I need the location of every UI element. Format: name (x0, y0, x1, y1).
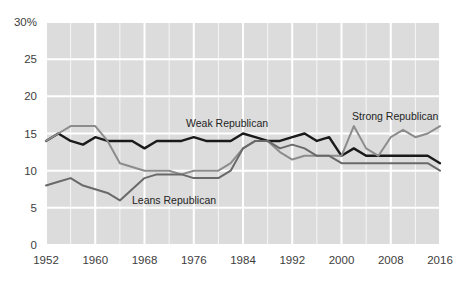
line-chart: 051015202530% 19521960196819761984199220… (0, 0, 463, 287)
x-tick-label: 2008 (378, 254, 404, 266)
x-tick-label: 1968 (132, 254, 158, 266)
y-tick-label: 20 (24, 90, 37, 102)
chart-container: 051015202530% 19521960196819761984199220… (0, 0, 463, 287)
x-tick-label: 2016 (427, 254, 453, 266)
y-tick-label: 0 (31, 239, 37, 251)
y-tick-label: 25 (24, 53, 37, 65)
x-axis-tick-labels: 195219601968197619841992200020082016 (33, 254, 453, 266)
series-annotation: Strong Republican (352, 110, 439, 122)
y-tick-label: 15 (24, 128, 37, 140)
y-tick-label: 5 (31, 202, 37, 214)
x-tick-label: 1976 (181, 254, 207, 266)
x-tick-label: 1952 (33, 254, 59, 266)
x-tick-label: 1960 (82, 254, 108, 266)
x-tick-label: 1992 (279, 254, 305, 266)
series-annotation: Weak Republican (186, 117, 268, 129)
y-tick-label: 30% (14, 16, 37, 28)
x-tick-label: 2000 (329, 254, 355, 266)
y-tick-label: 10 (24, 165, 37, 177)
series-annotation: Leans Republican (132, 194, 216, 206)
x-tick-label: 1984 (230, 254, 256, 266)
